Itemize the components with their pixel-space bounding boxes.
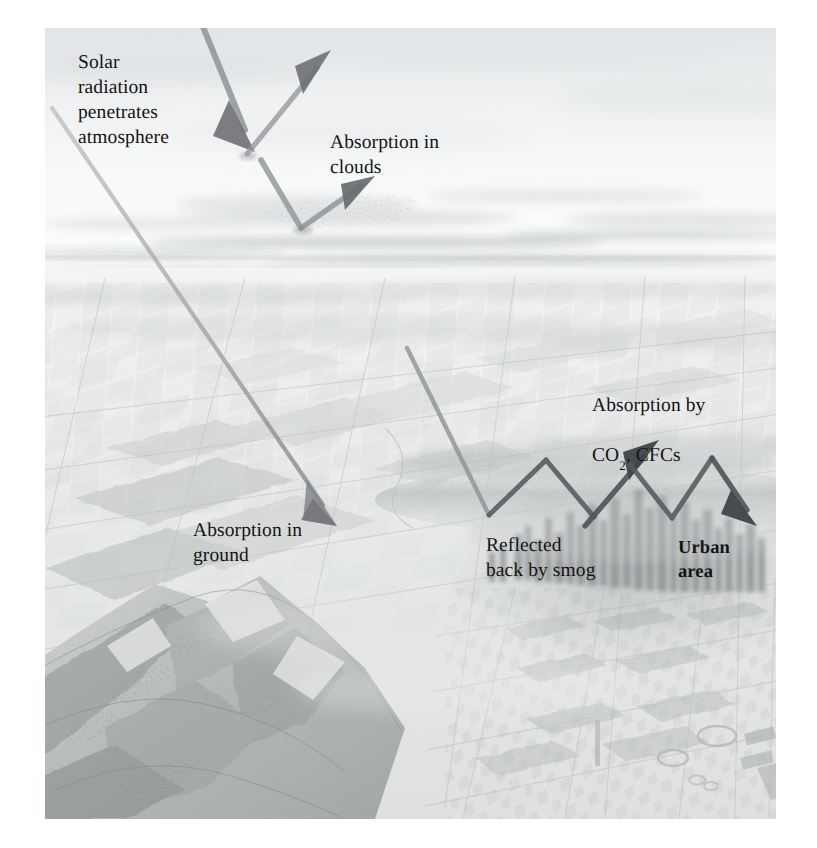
label-reflected-back-by-smog: Reflected back by smog [486, 533, 596, 583]
label-absorption-by: Absorption by [592, 395, 705, 416]
greenhouse-effect-illustration: Solar radiation penetrates atmosphere Ab… [45, 28, 776, 819]
label-absorption-by-co2-cfcs: Absorption by CO2, CFCs [592, 368, 705, 468]
label-solar-radiation: Solar radiation penetrates atmosphere [78, 50, 169, 150]
label-co2-subscript: 2 [619, 458, 626, 473]
label-co2: CO [592, 445, 619, 466]
label-urban-area: Urban area [678, 536, 730, 584]
label-absorption-in-ground: Absorption in ground [193, 518, 302, 568]
label-absorption-in-clouds: Absorption in clouds [330, 130, 439, 180]
illustration-page: Solar radiation penetrates atmosphere Ab… [0, 0, 817, 848]
label-cfcs: , CFCs [626, 445, 681, 466]
